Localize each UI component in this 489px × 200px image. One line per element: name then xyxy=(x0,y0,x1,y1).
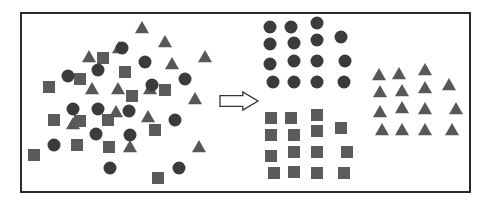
circle-shape xyxy=(116,42,129,55)
circle-shape xyxy=(267,76,280,89)
circle-shape xyxy=(339,55,352,68)
triangle-shape xyxy=(82,50,96,62)
circle-shape xyxy=(92,103,105,116)
clustering-diagram xyxy=(0,0,489,200)
circle-shape xyxy=(124,129,137,142)
circle-shape xyxy=(90,128,103,141)
triangle-shape xyxy=(158,35,172,47)
square-shape xyxy=(126,90,138,102)
triangle-shape xyxy=(165,57,179,69)
mixed-shapes-group xyxy=(28,21,212,184)
square-shape xyxy=(288,146,300,158)
circle-shape xyxy=(311,55,324,68)
triangle-shape xyxy=(141,110,155,122)
circle-shape xyxy=(169,114,182,127)
square-shape xyxy=(265,112,277,124)
square-shape xyxy=(265,129,277,141)
square-shape xyxy=(338,167,350,179)
triangle-shape xyxy=(372,68,386,80)
triangle-shape xyxy=(445,123,459,135)
circle-shape xyxy=(139,56,152,69)
circle-shape xyxy=(264,21,277,34)
triangle-shape xyxy=(375,123,389,135)
square-shape xyxy=(48,114,60,126)
circle-shape xyxy=(264,58,277,71)
circle-shape xyxy=(48,139,61,152)
triangle-shape xyxy=(135,21,149,33)
circle-shape xyxy=(62,70,75,83)
circle-shape xyxy=(179,73,192,86)
square-shape xyxy=(103,141,115,153)
triangle-shape xyxy=(123,140,137,152)
circle-shape xyxy=(311,76,324,89)
triangle-shape xyxy=(418,123,432,135)
circle-shape xyxy=(92,64,105,77)
triangle-shape xyxy=(395,101,409,113)
circle-shape xyxy=(311,34,324,47)
triangle-shape xyxy=(395,84,409,96)
square-shape xyxy=(265,150,277,162)
triangle-shape xyxy=(109,105,123,117)
triangle-shape xyxy=(192,140,206,152)
square-shape xyxy=(119,66,131,78)
triangle-shape xyxy=(449,102,463,114)
square-shape xyxy=(28,149,40,161)
square-shape xyxy=(74,73,86,85)
circle-shape xyxy=(288,76,301,89)
circle-shape xyxy=(288,55,301,68)
circle-shape xyxy=(104,162,117,175)
circle-shape xyxy=(335,31,348,44)
square-shape xyxy=(149,124,161,136)
square-shape xyxy=(311,146,323,158)
square-shape xyxy=(285,112,297,124)
circle-shape xyxy=(173,162,186,175)
square-shape xyxy=(311,109,323,121)
triangle-shape xyxy=(198,50,212,62)
triangle-shape xyxy=(188,92,202,104)
triangle-shape xyxy=(442,78,456,90)
square-shape xyxy=(71,139,83,151)
circle-cluster xyxy=(264,17,352,89)
circle-shape xyxy=(288,37,301,50)
arrow-shape xyxy=(220,92,258,110)
square-shape xyxy=(159,84,171,96)
triangle-shape xyxy=(373,105,387,117)
triangle-shape xyxy=(395,123,409,135)
triangle-shape xyxy=(418,102,432,114)
right-arrow-icon xyxy=(220,92,258,110)
circle-shape xyxy=(123,105,136,118)
circle-shape xyxy=(146,79,159,92)
square-shape xyxy=(335,122,347,134)
square-shape xyxy=(311,167,323,179)
circle-shape xyxy=(285,21,298,34)
square-shape xyxy=(43,81,55,93)
circle-shape xyxy=(311,17,324,30)
square-shape xyxy=(152,172,164,184)
triangle-shape xyxy=(392,67,406,79)
triangle-shape xyxy=(111,82,125,94)
square-shape xyxy=(288,129,300,141)
square-shape xyxy=(97,52,109,64)
circle-shape xyxy=(264,38,277,51)
triangle-shape xyxy=(85,82,99,94)
triangle-cluster xyxy=(372,63,463,135)
square-cluster xyxy=(265,109,353,179)
circle-shape xyxy=(67,103,80,116)
triangle-shape xyxy=(418,63,432,75)
square-shape xyxy=(268,167,280,179)
circle-shape xyxy=(338,76,351,89)
square-shape xyxy=(341,146,353,158)
square-shape xyxy=(288,166,300,178)
triangle-shape xyxy=(373,85,387,97)
triangle-shape xyxy=(418,81,432,93)
square-shape xyxy=(311,125,323,137)
